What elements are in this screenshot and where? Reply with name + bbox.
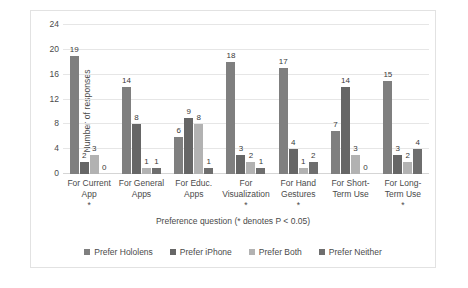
bar[interactable]	[184, 118, 193, 174]
bar-slot: 3	[90, 25, 99, 174]
bar-value-label: 7	[333, 121, 337, 129]
bar[interactable]	[194, 124, 203, 174]
x-axis-label-line: App	[63, 189, 115, 200]
y-axis-tick-0: 0	[54, 168, 59, 178]
bar[interactable]	[341, 87, 350, 174]
bar[interactable]	[413, 149, 422, 174]
bar[interactable]	[204, 168, 213, 174]
x-axis-label-line: For	[220, 178, 272, 189]
x-axis-label-line: Term Use	[377, 189, 429, 200]
legend-item[interactable]: Prefer iPhone	[170, 247, 232, 257]
bar[interactable]	[403, 162, 412, 174]
significance-marker: *	[377, 200, 429, 210]
bar-group: 15324	[377, 25, 429, 174]
x-axis-label: For HandGestures*	[272, 178, 324, 210]
bar-group: 19230	[63, 25, 115, 174]
bar-slot: 1	[152, 25, 161, 174]
x-axis-label-line: For General	[115, 178, 167, 189]
bar-group: 18321	[220, 25, 272, 174]
x-axis-label-line: For Educ.	[168, 178, 220, 189]
x-axis-label: For CurrentApp*	[63, 178, 115, 210]
x-axis-label-line: For Hand	[272, 178, 324, 189]
bar-value-label: 0	[363, 164, 367, 172]
bar[interactable]	[132, 124, 141, 174]
y-axis-tick-4: 4	[54, 143, 59, 153]
x-axis-label-line: For Long-	[377, 178, 429, 189]
bar[interactable]	[351, 155, 360, 174]
bar[interactable]	[299, 168, 308, 174]
bar-value-label: 1	[154, 158, 158, 166]
bar-group-bars: 6981	[168, 25, 220, 174]
bar[interactable]	[289, 149, 298, 174]
bar-slot: 3	[351, 25, 360, 174]
bar-slot: 17	[279, 25, 288, 174]
bar[interactable]	[246, 162, 255, 174]
bar[interactable]	[70, 56, 79, 174]
bar[interactable]	[122, 87, 131, 174]
bar[interactable]	[393, 155, 402, 174]
bar-slot: 1	[256, 25, 265, 174]
legend-swatch-icon	[319, 249, 325, 255]
bar[interactable]	[331, 131, 340, 174]
significance-marker: *	[272, 200, 324, 210]
bar[interactable]	[256, 168, 265, 174]
x-axis-label: For Long-Term Use*	[377, 178, 429, 210]
bar-slot: 6	[174, 25, 183, 174]
legend-item[interactable]: Prefer Both	[249, 247, 302, 257]
bar-group: 17412	[272, 25, 324, 174]
bar-value-label: 2	[311, 152, 315, 160]
bar-value-label: 3	[396, 145, 400, 153]
x-axis-label-line: Apps	[168, 189, 220, 200]
bar-value-label: 9	[186, 108, 190, 116]
bar-slot: 2	[80, 25, 89, 174]
bar-value-label: 3	[239, 145, 243, 153]
bar-slot: 18	[226, 25, 235, 174]
bar[interactable]	[279, 68, 288, 174]
legend-item[interactable]: Prefer Hololens	[84, 247, 153, 257]
x-axis-label: For GeneralApps	[115, 178, 167, 200]
x-axis-label: For Short-Term Use	[324, 178, 376, 200]
y-axis-tick-16: 16	[50, 69, 59, 79]
bar-value-label: 19	[70, 46, 79, 54]
bar-group-bars: 19230	[63, 25, 115, 174]
bar-value-label: 15	[383, 71, 392, 79]
y-axis-tick-8: 8	[54, 118, 59, 128]
legend-swatch-icon	[170, 249, 176, 255]
bar-value-label: 4	[416, 139, 420, 147]
bar[interactable]	[226, 62, 235, 174]
bar[interactable]	[383, 81, 392, 174]
plot-area: 0481216202419230For CurrentApp*14811For …	[63, 25, 429, 174]
bar[interactable]	[90, 155, 99, 174]
bar-value-label: 1	[301, 158, 305, 166]
bar-value-label: 1	[206, 158, 210, 166]
bar[interactable]	[309, 162, 318, 174]
bar[interactable]	[236, 155, 245, 174]
bar-slot: 0	[100, 25, 109, 174]
bar-slot: 1	[142, 25, 151, 174]
bar[interactable]	[142, 168, 151, 174]
bar-slot: 8	[132, 25, 141, 174]
bar-value-label: 8	[196, 114, 200, 122]
x-axis-label: For Educ.Apps	[168, 178, 220, 200]
bar-value-label: 14	[122, 77, 131, 85]
significance-marker: *	[220, 200, 272, 210]
bar[interactable]	[152, 168, 161, 174]
bar-group-bars: 15324	[377, 25, 429, 174]
bar-slot: 1	[299, 25, 308, 174]
bar[interactable]	[80, 162, 89, 174]
x-axis-label-line: For Short-	[324, 178, 376, 189]
x-axis-label: ForVisualization*	[220, 178, 272, 210]
bar-value-label: 17	[279, 58, 288, 66]
x-axis-label-line: Gestures	[272, 189, 324, 200]
bar-group-bars: 14811	[115, 25, 167, 174]
bar-value-label: 1	[144, 158, 148, 166]
bar-slot: 0	[361, 25, 370, 174]
bar[interactable]	[174, 137, 183, 174]
x-axis-label-line: Apps	[115, 189, 167, 200]
bar-value-label: 2	[82, 152, 86, 160]
bar-value-label: 1	[259, 158, 263, 166]
bar-value-label: 2	[249, 152, 253, 160]
bar-slot: 19	[70, 25, 79, 174]
legend-item[interactable]: Prefer Neither	[319, 247, 382, 257]
bar-value-label: 6	[176, 127, 180, 135]
